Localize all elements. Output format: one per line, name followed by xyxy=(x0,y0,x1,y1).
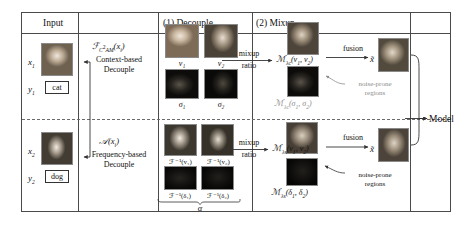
figure-root: Input (1) Decouple (2) Mixup x1 y1 cat x… xyxy=(0,0,472,225)
connector-overlay xyxy=(0,0,472,225)
